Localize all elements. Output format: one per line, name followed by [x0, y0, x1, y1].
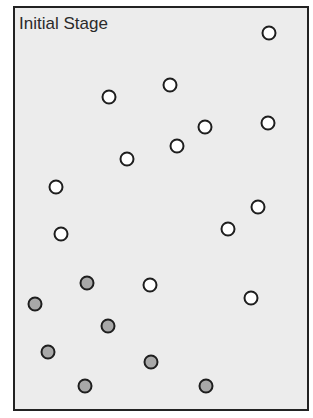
open-particle	[143, 278, 158, 293]
open-particle	[198, 120, 213, 135]
open-particle	[244, 291, 259, 306]
open-particle	[54, 227, 69, 242]
open-particle	[221, 222, 236, 237]
open-particle	[163, 78, 178, 93]
filled-particle	[28, 297, 43, 312]
open-particle	[262, 26, 277, 41]
filled-particle	[144, 355, 159, 370]
open-particle	[49, 180, 64, 195]
filled-particle	[41, 345, 56, 360]
filled-particle	[101, 319, 116, 334]
open-particle	[120, 152, 135, 167]
open-particle	[251, 200, 266, 215]
open-particle	[170, 139, 185, 154]
stage-title: Initial Stage	[19, 14, 108, 34]
open-particle	[102, 90, 117, 105]
filled-particle	[78, 379, 93, 394]
open-particle	[261, 116, 276, 131]
filled-particle	[199, 379, 214, 394]
filled-particle	[80, 276, 95, 291]
